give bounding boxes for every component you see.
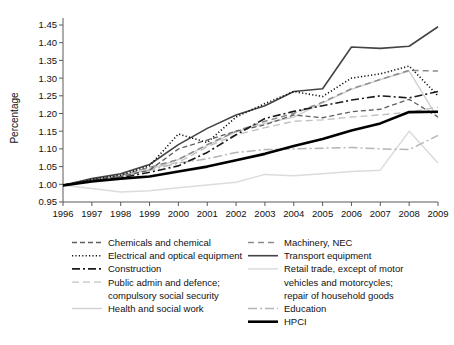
y-tick-label: 1.30 xyxy=(39,73,58,84)
x-tick-label: 2005 xyxy=(312,208,333,219)
y-tick-label: 1.05 xyxy=(39,161,58,172)
legend-label: Public admin and defence; xyxy=(108,277,220,288)
legend-label: Construction xyxy=(108,263,161,274)
x-tick-label: 2003 xyxy=(254,208,275,219)
x-tick-label: 2007 xyxy=(370,208,391,219)
series-line xyxy=(63,131,438,192)
legend-label: Education xyxy=(284,303,326,314)
legend-label: HPCI xyxy=(284,316,307,327)
legend-label: Health and social work xyxy=(108,303,204,314)
legend-label: Machinery, NEC xyxy=(284,237,353,248)
y-axis-ticks: 0.951.001.051.101.151.201.251.301.351.40… xyxy=(39,19,64,207)
legend-label: Electrical and optical equipment xyxy=(108,250,242,261)
y-axis-title: Percentage xyxy=(9,92,20,144)
y-tick-label: 0.95 xyxy=(39,196,58,207)
legend-label-continued: compulsory social security xyxy=(108,290,219,301)
x-tick-label: 2006 xyxy=(341,208,362,219)
y-tick-label: 1.40 xyxy=(39,37,58,48)
x-tick-label: 2001 xyxy=(197,208,218,219)
x-axis-ticks: 1996199719981999200020012002200320042005… xyxy=(52,202,448,219)
x-tick-label: 2004 xyxy=(283,208,304,219)
y-tick-label: 1.35 xyxy=(39,55,58,66)
legend-label: Transport equipment xyxy=(284,250,372,261)
legend-label-continued: repair of household goods xyxy=(284,290,394,301)
x-tick-label: 1998 xyxy=(110,208,131,219)
line-chart-figure: 0.951.001.051.101.151.201.251.301.351.40… xyxy=(0,0,454,345)
series-lines xyxy=(63,27,438,192)
series-line xyxy=(63,27,438,186)
x-tick-label: 2002 xyxy=(226,208,247,219)
series-line xyxy=(63,99,438,185)
x-tick-label: 2008 xyxy=(399,208,420,219)
legend-label-continued: vehicles and motorcycles; xyxy=(284,277,393,288)
y-tick-label: 1.15 xyxy=(39,126,58,137)
y-tick-label: 1.45 xyxy=(39,19,58,30)
y-tick-label: 1.25 xyxy=(39,90,58,101)
y-tick-label: 1.10 xyxy=(39,143,58,154)
x-tick-label: 1997 xyxy=(81,208,102,219)
legend-label: Retail trade, except of motor xyxy=(284,263,403,274)
legend-label: Chemicals and chemical xyxy=(108,237,211,248)
x-tick-label: 2000 xyxy=(168,208,189,219)
x-tick-label: 2009 xyxy=(427,208,448,219)
x-tick-label: 1999 xyxy=(139,208,160,219)
chart-legend: Chemicals and chemicalElectrical and opt… xyxy=(72,237,403,327)
x-tick-label: 1996 xyxy=(52,208,73,219)
y-tick-label: 1.20 xyxy=(39,108,58,119)
series-line xyxy=(63,92,438,186)
y-tick-label: 1.00 xyxy=(39,179,58,190)
